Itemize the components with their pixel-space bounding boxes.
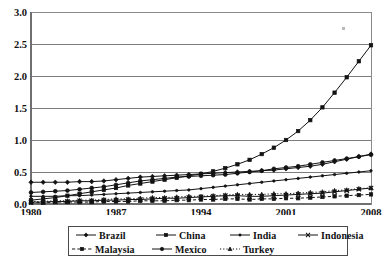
chart-page: 0.00.51.01.52.02.53.0 198019871994200120…: [0, 0, 384, 259]
series-china: [29, 44, 372, 202]
chart-legend: BrazilChinaIndiaIndonesiaMalaysiaMexicoT…: [68, 226, 348, 256]
x-tick-label: 1980: [21, 207, 42, 215]
legend-label: China: [179, 230, 206, 241]
y-tick-label: 2.5: [14, 39, 27, 50]
legend-item-brazil: Brazil: [75, 229, 126, 241]
legend-swatch-square-icon: [155, 229, 177, 241]
legend-row: MalaysiaMexicoTurkey: [73, 242, 344, 256]
legend-items-container: BrazilChinaIndiaIndonesiaMalaysiaMexicoT…: [69, 227, 347, 255]
legend-item-indonesia: Indonesia: [297, 229, 364, 241]
y-tick-label: 1.5: [14, 103, 27, 114]
legend-row: BrazilChinaIndiaIndonesia: [73, 228, 344, 242]
legend-item-india: India: [229, 229, 276, 241]
legend-label: Brazil: [99, 230, 126, 241]
legend-label: India: [253, 230, 276, 241]
x-tick-label: 2001: [276, 207, 297, 215]
legend-item-china: China: [155, 229, 206, 241]
y-tick-label: 1.0: [14, 135, 27, 146]
y-tick-label: 0.5: [14, 167, 27, 178]
legend-swatch-dot-icon: [229, 229, 251, 241]
y-tick-label: 3.0: [14, 7, 27, 18]
x-tick-label: 1987: [106, 207, 127, 215]
y-axis-labels: 0.00.51.01.52.02.53.0: [14, 7, 27, 210]
legend-item-mexico: Mexico: [151, 243, 207, 255]
legend-swatch-triangle-icon: [219, 243, 241, 255]
series-brazil: [29, 152, 373, 185]
legend-swatch-cross-icon: [297, 229, 319, 241]
legend-label: Malaysia: [95, 244, 135, 255]
x-tick-label: 2008: [361, 207, 382, 215]
legend-label: Turkey: [243, 244, 274, 255]
legend-swatch-diamond-icon: [75, 229, 97, 241]
legend-label: Mexico: [175, 244, 207, 255]
x-tick-label: 1994: [191, 207, 213, 215]
legend-label: Indonesia: [321, 230, 364, 241]
legend-item-malaysia: Malaysia: [71, 243, 135, 255]
plot-area: 0.00.51.01.52.02.53.0 198019871994200120…: [0, 0, 384, 215]
series-group: [29, 44, 373, 205]
legend-swatch-square-icon: [71, 243, 93, 255]
y-tick-label: 2.0: [14, 71, 27, 82]
x-axis-labels: 19801987199420012008: [21, 207, 382, 215]
line-chart-svg: 0.00.51.01.52.02.53.0 198019871994200120…: [0, 0, 384, 215]
scan-artifact: [342, 27, 345, 30]
legend-item-turkey: Turkey: [219, 243, 274, 255]
legend-swatch-circle-icon: [151, 243, 173, 255]
